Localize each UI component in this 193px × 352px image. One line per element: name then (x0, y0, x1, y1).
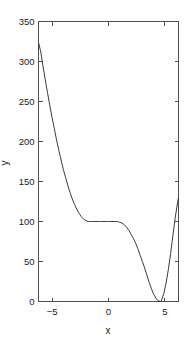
y-tick-label: 150 (19, 176, 35, 187)
x-tick-marks (52, 22, 165, 302)
x-tick-label: 5 (162, 306, 167, 317)
x-axis-title: x (106, 325, 111, 336)
y-axis-title: y (0, 161, 10, 166)
x-tick-labels: −505 (47, 306, 168, 317)
y-tick-label: 200 (19, 136, 35, 147)
y-tick-label: 350 (19, 16, 35, 27)
y-tick-marks (39, 22, 179, 302)
y-tick-label: 100 (19, 216, 35, 227)
y-tick-label: 50 (24, 256, 35, 267)
x-tick-label: 0 (106, 306, 111, 317)
y-tick-label: 0 (29, 296, 34, 307)
axes-box (39, 22, 179, 302)
data-series-curve (39, 42, 179, 301)
x-tick-label: −5 (47, 306, 58, 317)
y-tick-label: 250 (19, 96, 35, 107)
plot-svg: 050100150200250300350 −505 x y (0, 0, 193, 352)
figure-canvas: 050100150200250300350 −505 x y (0, 0, 193, 352)
y-tick-label: 300 (19, 56, 35, 67)
y-tick-labels: 050100150200250300350 (19, 16, 35, 307)
